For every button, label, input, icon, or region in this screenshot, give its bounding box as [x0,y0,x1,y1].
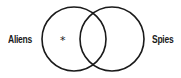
circle-aliens [42,7,106,71]
label-aliens: Aliens [8,34,32,45]
label-spies: Spies [152,34,173,45]
circle-spies [80,7,144,71]
asterisk-marker: * [60,35,66,46]
